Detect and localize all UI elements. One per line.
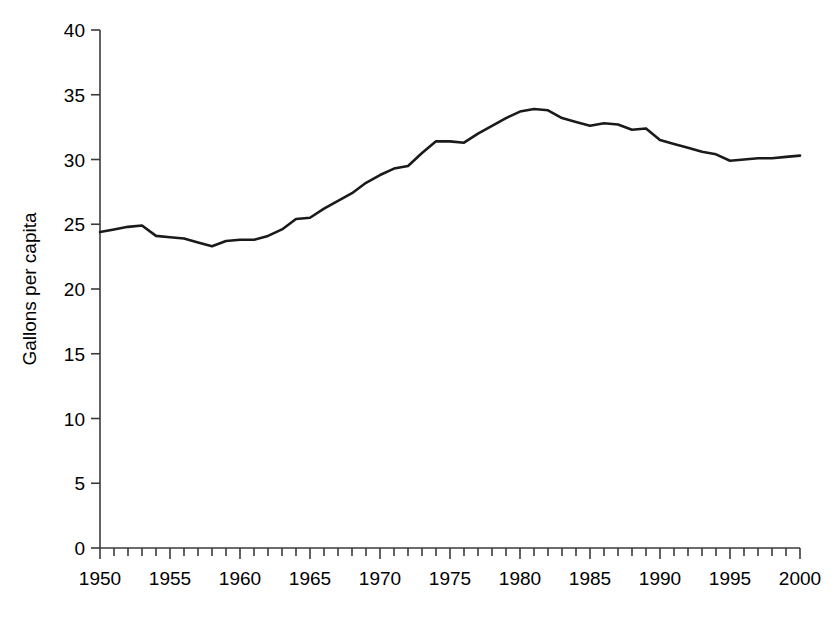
series-gallons-per-capita (100, 109, 800, 246)
y-axis-tick-label: 10 (64, 409, 85, 430)
y-axis-tick-label: 25 (64, 214, 85, 235)
data-series-line (100, 109, 800, 246)
x-axis-tick-label: 1955 (149, 568, 191, 589)
y-axis-tick-label: 15 (64, 344, 85, 365)
x-axis-tick-label: 1990 (639, 568, 681, 589)
line-chart: 0510152025303540 19501955196019651970197… (0, 0, 836, 618)
x-axis-tick-label: 1980 (499, 568, 541, 589)
y-axis: 0510152025303540 (64, 20, 100, 559)
x-axis-tick-label: 1960 (219, 568, 261, 589)
x-axis-tick-label: 1950 (79, 568, 121, 589)
chart-canvas: 0510152025303540 19501955196019651970197… (0, 0, 836, 618)
x-axis-tick-label: 1975 (429, 568, 471, 589)
y-axis-tick-label: 30 (64, 150, 85, 171)
x-axis-tick-label: 1995 (709, 568, 751, 589)
y-axis-title: Gallons per capita (19, 212, 40, 366)
y-axis-tick-label: 35 (64, 85, 85, 106)
y-axis-tick-label: 20 (64, 279, 85, 300)
x-axis-tick-label: 1985 (569, 568, 611, 589)
x-axis-tick-label: 1970 (359, 568, 401, 589)
y-axis-tick-label: 40 (64, 20, 85, 41)
y-axis-tick-label: 0 (74, 538, 85, 559)
x-axis-tick-label: 1965 (289, 568, 331, 589)
x-axis-tick-label: 2000 (779, 568, 821, 589)
y-axis-tick-label: 5 (74, 473, 85, 494)
y-axis-title-text: Gallons per capita (19, 212, 40, 366)
x-axis: 1950195519601965197019751980198519901995… (79, 548, 821, 589)
